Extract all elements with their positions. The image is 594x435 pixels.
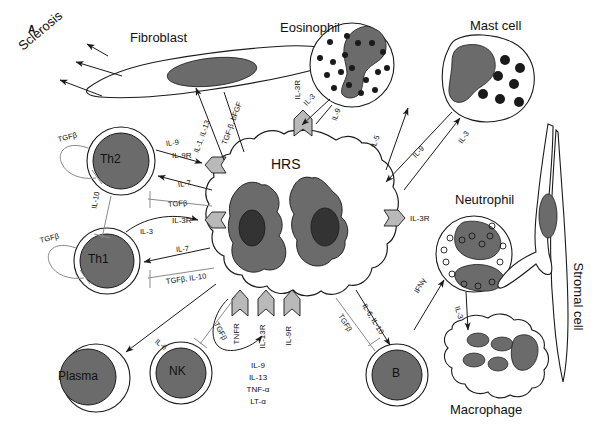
label-plasma: Plasma xyxy=(58,369,98,383)
label-fibroblast: Fibroblast xyxy=(130,30,187,45)
label-b-cell: B xyxy=(392,366,400,380)
cell-th2 xyxy=(87,127,155,195)
edge-label-hrs-to-th2-il7: IL-7 xyxy=(177,178,191,189)
edge-fibro-to-sclerosis-2 xyxy=(76,62,122,76)
label-hrs: HRS xyxy=(271,156,301,172)
label-receptor-il-13r: IL-13R xyxy=(258,324,267,348)
edge-fibro-to-sclerosis-1 xyxy=(87,44,108,56)
label-th1: Th1 xyxy=(88,252,109,266)
label-eosinophil: Eosinophil xyxy=(280,20,340,35)
edge-hrs-to-mast-il5 xyxy=(386,108,408,170)
label-receptor-il-9r-bottom: IL-9R xyxy=(284,326,293,346)
label-receptor-il-3r-top: IL-3R xyxy=(293,80,302,100)
label-mast-cell: Mast cell xyxy=(470,18,521,33)
edge-eos-to-hrs xyxy=(316,105,332,124)
edge-label-th2-to-hrs-il9: IL-9 xyxy=(165,137,179,148)
edge-label-hrs-to-th1-il7: IL-7 xyxy=(176,244,190,254)
edge-label-hrs-to-th2-tgfb: TGFβ xyxy=(168,198,188,209)
autocrine-line-2: IL-13 xyxy=(230,372,286,384)
label-receptor-il-3r-left: IL-3R xyxy=(172,216,192,225)
cell-macrophage xyxy=(445,314,549,398)
label-macrophage: Macrophage xyxy=(450,402,522,417)
label-stromal-cell: Stromal cell xyxy=(571,263,586,331)
autocrine-line-1: IL-9 xyxy=(230,360,286,372)
label-receptor-tnfr: TNFR xyxy=(232,323,241,344)
edge-hrs-to-plasma-il6 xyxy=(126,284,216,352)
receptor-tnfr xyxy=(232,290,248,316)
autocrine-line-4: LT-α xyxy=(230,396,286,408)
cell-hrs xyxy=(206,130,399,296)
label-th2: Th2 xyxy=(100,152,121,166)
figure-panel: A Sclerosis Fibroblast Eosinophil Mast c… xyxy=(0,0,594,435)
edge-label-th1-to-hrs-il3: IL-3 xyxy=(140,227,153,236)
cell-eosinophil xyxy=(310,23,394,107)
receptor-il-13r xyxy=(258,290,274,316)
label-neutrophil: Neutrophil xyxy=(455,192,514,207)
label-receptor-il-3r-right: IL-3R xyxy=(410,214,430,223)
label-nk: NK xyxy=(169,364,186,378)
cell-mast xyxy=(442,35,534,122)
label-receptor-il-9r: IL-9R xyxy=(172,151,192,160)
autocrine-line-3: TNF-α xyxy=(230,384,286,396)
